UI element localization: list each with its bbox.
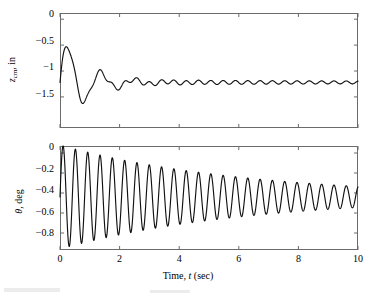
xtick-5: 10 xyxy=(353,254,363,264)
ytick-bottom-4: −0.8 xyxy=(30,228,54,238)
y-axis-symbol-z: z xyxy=(6,78,17,82)
ytick-bottom-2: −0.4 xyxy=(30,185,54,195)
ytick-bottom-1: −0.2 xyxy=(30,164,54,174)
plot-area-cm-displacement xyxy=(60,13,358,128)
ytick-top-3: −1.5 xyxy=(30,89,54,99)
y-axis-symbol-theta: θ xyxy=(13,209,24,214)
xtick-0: 0 xyxy=(58,254,63,264)
x-axis-title-prefix: Time, xyxy=(163,270,189,281)
plot-area-pitch-angle xyxy=(60,146,358,250)
ytick-top-2: −1 xyxy=(30,62,54,72)
scan-artifact-left xyxy=(4,288,60,292)
y-axis-units-deg: , deg xyxy=(13,189,24,208)
ytick-top-0: 0 xyxy=(30,9,54,19)
xtick-4: 8 xyxy=(296,254,301,264)
y-axis-title-pitch-angle: θ, deg xyxy=(13,172,24,232)
y-axis-title-cm-displacement: zcm, in xyxy=(6,35,17,105)
xtick-2: 4 xyxy=(177,254,182,264)
xtick-1: 2 xyxy=(117,254,122,264)
ytick-bottom-0: 0 xyxy=(30,142,54,152)
scan-artifact-bottom xyxy=(150,290,190,293)
x-axis-units-sec: (sec) xyxy=(191,270,213,281)
y-axis-units-in: , in xyxy=(6,57,17,70)
figure-canvas: 0 −0.5 −1 −1.5 zcm, in 0 −0.2 −0.4 −0.6 … xyxy=(0,0,376,296)
y-axis-subscript-cm: cm xyxy=(11,70,19,79)
x-axis-title: Time, t (sec) xyxy=(0,270,376,281)
ytick-top-1: −0.5 xyxy=(30,36,54,46)
ytick-bottom-3: −0.6 xyxy=(30,207,54,217)
xtick-3: 6 xyxy=(236,254,241,264)
chart-panel-cm-displacement xyxy=(60,13,358,128)
chart-panel-pitch-angle xyxy=(60,146,358,250)
